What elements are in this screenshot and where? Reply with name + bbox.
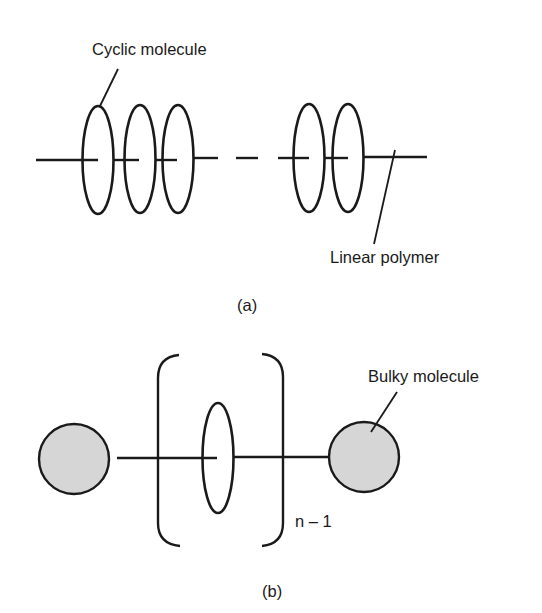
panel-b: Bulky molecule n – 1 (b) [39,354,479,600]
cyclic-molecule-leader [100,69,118,106]
bulky-molecule-leader [371,392,397,432]
bulky-molecule-left [39,424,109,494]
bulky-molecule-right [329,422,399,492]
left-bracket [158,355,180,546]
panel-a-caption: (a) [237,296,257,314]
cyclic-molecule-label: Cyclic molecule [92,40,207,58]
repeat-subscript-label: n – 1 [295,512,332,530]
linear-polymer-axle-b [117,457,330,458]
panel-a: Cyclic molecule Linear polymer (a) [36,40,440,314]
bulky-molecule-label: Bulky molecule [368,367,479,385]
linear-polymer-leader [374,150,395,244]
panel-b-caption: (b) [262,582,282,600]
linear-polymer-label: Linear polymer [330,248,440,266]
cyclic-molecules [83,104,364,214]
polyrotaxane-diagram: Cyclic molecule Linear polymer (a) Bulky… [0,0,542,613]
linear-polymer-axle [36,157,427,160]
right-bracket [262,354,283,546]
